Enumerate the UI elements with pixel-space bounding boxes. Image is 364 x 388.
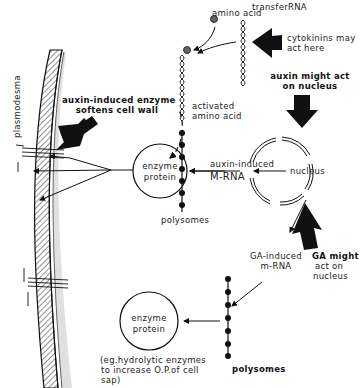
label-auxin-nucleus-1: auxin might act xyxy=(270,71,350,81)
label-ga-mrna-1: GA-induced xyxy=(246,251,306,261)
cytokinins-arrow xyxy=(252,28,282,58)
label-hydrolytic-3: sap) xyxy=(101,375,121,385)
amino-acid-arrow xyxy=(194,27,215,50)
polysomes-bottom-chain xyxy=(225,276,231,359)
trna-arrow xyxy=(198,42,236,53)
label-ga-nucleus-1: GA might xyxy=(312,251,359,261)
label-polysomes-top: polysomes xyxy=(161,215,209,225)
label-enzyme-bottom-1: enzyme xyxy=(124,313,174,323)
label-auxin-mrna-2: M-RNA xyxy=(210,172,245,182)
label-cytokinins-1: cytokinins may xyxy=(287,33,356,43)
label-auxin-mrna-1: auxin-induced xyxy=(210,159,274,169)
label-transfer-rna: transferRNA xyxy=(252,2,307,12)
activated-amino-acid-ball xyxy=(184,47,191,54)
label-activated-1: activated xyxy=(192,101,234,111)
enzyme-protein-top-circle xyxy=(133,144,187,198)
diagram-canvas xyxy=(0,0,364,388)
auxin-wall-arrow-shape xyxy=(56,116,98,150)
ga-mrna-to-polysome-arrow xyxy=(232,282,262,306)
label-ga-nucleus-3: nucleus xyxy=(313,271,348,281)
label-enzyme-bottom-2: protein xyxy=(124,324,174,334)
label-auxin-enzyme-2: softens cell wall xyxy=(62,105,172,115)
label-cytokinins-2: act here xyxy=(287,43,324,53)
label-ga-nucleus-2: act on xyxy=(315,261,343,271)
auxin-nucleus-arrow xyxy=(286,95,318,128)
transfer-rna-helix xyxy=(241,20,245,86)
label-enzyme-top-2: protein xyxy=(135,172,185,182)
label-ga-mrna-2: m-RNA xyxy=(246,261,306,271)
label-hydrolytic-2: to increase O.P.of cell xyxy=(101,365,199,375)
label-hydrolytic-1: (eg.hydrolytic enzymes xyxy=(100,355,206,365)
label-plasmodesma: plasmodesma xyxy=(12,75,22,138)
label-auxin-nucleus-2: on nucleus xyxy=(270,81,350,91)
label-auxin-enzyme-1: auxin-induced enzyme xyxy=(62,95,172,105)
ga-nucleus-arrow xyxy=(292,203,322,250)
activated-amino-acid-helix xyxy=(180,55,184,121)
label-enzyme-top-1: enzyme xyxy=(135,161,185,171)
label-polysomes-bottom: polysomes xyxy=(232,364,286,374)
label-activated-2: amino acid xyxy=(192,111,242,121)
label-nucleus: nucleus xyxy=(290,166,325,176)
